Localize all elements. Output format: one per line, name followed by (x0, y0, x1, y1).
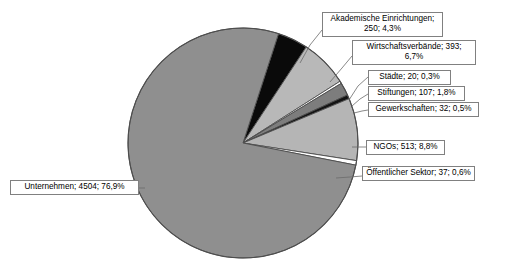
slice-label-staedte: Städte; 20; 0,3% (368, 70, 451, 85)
pie-slice-group (128, 28, 358, 258)
pie-chart-figure: Akademische Einrichtungen; 250; 4,3% Wir… (0, 0, 507, 269)
leader-line-stiftungen (352, 94, 368, 106)
slice-label-unternehmen: Unternehmen; 4504; 76,9% (10, 180, 139, 195)
slice-label-akademische-einrichtungen: Akademische Einrichtungen; 250; 4,3% (322, 12, 443, 37)
leader-line-gewerkschaften (354, 110, 368, 113)
leader-line-staedte (349, 77, 368, 100)
slice-label-oeffentlicher-sektor: Öffentlicher Sektor; 37; 0,6% (362, 166, 475, 181)
slice-label-gewerkschaften: Gewerkschaften; 32; 0,5% (368, 102, 479, 117)
slice-label-wirtschaftsverbaende: Wirtschaftsverbände; 393; 6,7% (352, 40, 476, 65)
slice-label-stiftungen: Stiftungen; 107; 1,8% (368, 86, 465, 101)
leader-line-wirtschaft (330, 56, 352, 82)
slice-label-ngos: NGOs; 513; 8,8% (366, 140, 445, 155)
